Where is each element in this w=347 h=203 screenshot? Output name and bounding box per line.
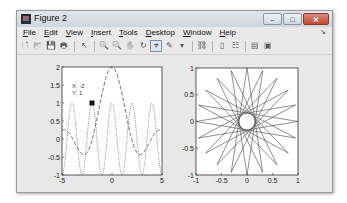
left-axes[interactable]: -505-1-0.500.511.52X: -2Y: 1	[48, 64, 164, 185]
y-tick-label: 1	[190, 65, 194, 72]
y-tick-label: -0.5	[182, 145, 194, 152]
datatip-marker[interactable]	[90, 101, 95, 106]
y-tick-label: 0	[190, 118, 194, 125]
y-tick-label: -0.5	[48, 154, 60, 161]
x-tick-label: 0	[245, 177, 249, 184]
y-tick-label: -1	[188, 172, 194, 179]
right-axes[interactable]: -1-0.500.51-1-0.500.51	[182, 65, 300, 185]
x-tick-label: 0.5	[268, 177, 278, 184]
y-tick-label: 0.5	[50, 118, 60, 125]
x-tick-label: -0.5	[215, 177, 227, 184]
x-tick-label: 1	[296, 177, 300, 184]
y-tick-label: 0.5	[184, 91, 194, 98]
plots-layer: -505-1-0.500.511.52X: -2Y: 1-1-0.500.51-…	[0, 0, 347, 203]
y-tick-label: 2	[56, 64, 60, 71]
datatip-x-label: X: -2	[72, 83, 85, 89]
y-tick-label: 1.5	[50, 82, 60, 89]
x-tick-label: 0	[110, 177, 114, 184]
right-axes-box	[196, 68, 298, 175]
y-tick-label: 1	[56, 100, 60, 107]
x-tick-label: 5	[160, 177, 164, 184]
y-tick-label: -1	[54, 172, 60, 179]
y-tick-label: 0	[56, 136, 60, 143]
datatip-y-label: Y: 1	[72, 90, 83, 96]
